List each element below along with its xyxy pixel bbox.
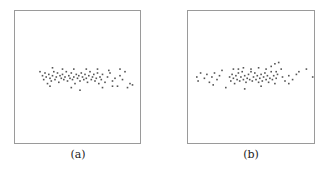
scatter-point-b-72 (260, 85, 262, 87)
scatter-point-b-40 (265, 79, 267, 81)
scatter-point-b-64 (292, 79, 294, 81)
scatter-point-b-6 (211, 76, 213, 78)
scatter-point-a-7 (49, 78, 51, 80)
scatter-point-a-62 (52, 67, 54, 69)
scatter-point-b-19 (239, 80, 241, 82)
scatter-point-a-2 (43, 79, 45, 81)
scatter-point-b-65 (296, 74, 298, 76)
scatter-point-a-64 (73, 68, 75, 70)
scatter-point-b-47 (274, 83, 276, 85)
scatter-plot-a (15, 11, 140, 143)
scatter-point-b-4 (206, 74, 208, 76)
scatter-point-a-48 (101, 79, 103, 81)
scatter-point-b-33 (257, 75, 259, 77)
scatter-point-b-23 (244, 75, 246, 77)
scatter-point-a-0 (39, 71, 41, 73)
scatter-point-b-36 (260, 74, 262, 76)
scatter-point-a-33 (82, 76, 84, 78)
scatter-point-a-52 (109, 72, 111, 74)
scatter-point-b-51 (238, 68, 240, 70)
scatter-point-b-30 (253, 76, 255, 78)
scatter-point-b-67 (306, 68, 308, 70)
scatter-point-a-56 (119, 75, 121, 77)
scatter-point-b-14 (233, 78, 235, 80)
scatter-point-b-56 (270, 66, 272, 68)
scatter-point-b-11 (229, 76, 231, 78)
scatter-point-a-16 (61, 78, 63, 80)
scatter-point-a-68 (119, 68, 121, 70)
scatter-point-a-30 (78, 75, 80, 77)
scatter-point-a-29 (77, 78, 79, 80)
scatter-point-b-20 (240, 76, 242, 78)
scatter-point-a-44 (96, 78, 98, 80)
scatter-point-b-17 (236, 79, 238, 81)
scatter-point-a-46 (98, 83, 100, 85)
scatter-point-b-25 (246, 78, 248, 80)
scatter-point-b-70 (225, 87, 227, 89)
scatter-point-b-12 (230, 80, 232, 82)
scatter-point-b-34 (258, 82, 260, 84)
scatter-point-a-1 (42, 75, 44, 77)
scatter-point-a-28 (76, 74, 78, 76)
scatter-point-a-36 (86, 78, 88, 80)
scatter-point-a-13 (57, 72, 59, 74)
scatter-point-a-19 (64, 76, 66, 78)
scatter-point-b-39 (264, 72, 266, 74)
scatter-point-b-13 (231, 74, 233, 76)
scatter-point-b-2 (200, 72, 202, 74)
scatter-point-a-72 (102, 87, 104, 89)
scatter-point-b-53 (250, 68, 252, 70)
scatter-point-b-43 (269, 78, 271, 80)
scatter-point-b-18 (238, 72, 240, 74)
scatter-point-a-17 (62, 74, 64, 76)
scatter-point-a-32 (81, 72, 83, 74)
scatter-point-a-59 (127, 87, 129, 89)
scatter-point-b-50 (233, 68, 235, 70)
scatter-point-a-57 (122, 79, 124, 81)
scatter-point-a-43 (94, 80, 96, 82)
scatter-point-a-5 (47, 83, 49, 85)
scatter-point-a-11 (54, 79, 56, 81)
scatter-point-a-34 (83, 79, 85, 81)
scatter-point-a-45 (97, 72, 99, 74)
scatter-point-a-23 (69, 78, 71, 80)
scatter-point-b-57 (274, 63, 276, 65)
scatter-point-a-66 (97, 68, 99, 70)
scatter-point-b-61 (282, 76, 284, 78)
scatter-point-a-35 (84, 74, 86, 76)
scatter-point-b-46 (273, 75, 275, 77)
scatter-point-b-38 (263, 76, 265, 78)
panel-b-frame (187, 10, 315, 144)
scatter-point-b-66 (298, 71, 300, 73)
scatter-point-a-14 (58, 82, 60, 84)
scatter-point-b-1 (197, 80, 199, 82)
scatter-point-a-55 (117, 85, 119, 87)
scatter-point-b-8 (216, 79, 218, 81)
scatter-point-a-9 (52, 75, 54, 77)
scatter-point-a-6 (48, 74, 50, 76)
scatter-point-b-52 (243, 67, 245, 69)
scatter-plot-b (188, 11, 314, 143)
scatter-point-b-27 (249, 79, 251, 81)
scatter-point-b-37 (262, 80, 264, 82)
scatter-point-b-16 (235, 75, 237, 77)
scatter-point-a-73 (112, 85, 114, 87)
scatter-point-b-59 (280, 68, 282, 70)
scatter-point-a-65 (86, 68, 88, 70)
scatter-point-b-44 (270, 71, 272, 73)
scatter-point-a-10 (53, 71, 55, 73)
scatter-point-a-63 (62, 68, 64, 70)
scatter-point-a-15 (59, 75, 61, 77)
scatter-point-b-48 (275, 78, 277, 80)
scatter-point-b-0 (196, 76, 198, 78)
scatter-point-a-4 (45, 76, 47, 78)
scatter-point-a-67 (108, 70, 110, 72)
scatter-point-b-28 (250, 71, 252, 73)
scatter-point-a-41 (92, 76, 94, 78)
scatter-point-a-8 (51, 80, 53, 82)
scatter-point-b-7 (214, 72, 216, 74)
scatter-point-a-49 (102, 74, 104, 76)
scatter-point-a-37 (87, 82, 89, 84)
scatter-point-b-49 (277, 74, 279, 76)
scatter-point-a-58 (124, 71, 126, 73)
